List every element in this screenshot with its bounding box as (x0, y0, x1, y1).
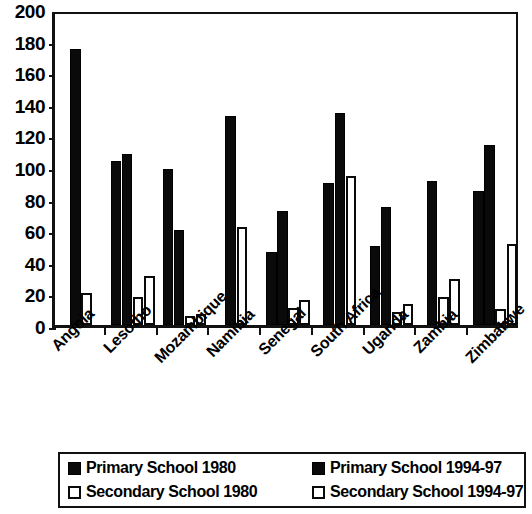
y-axis-tick-label: 140 (0, 97, 45, 116)
y-axis-tick-label: 80 (0, 192, 45, 211)
x-axis-labels: AngolaLesothoMozambiqueNamibiaSenegalSou… (0, 330, 532, 445)
outlined-square-icon (68, 486, 81, 499)
bar (111, 161, 122, 325)
legend-label: Secondary School 1980 (86, 483, 257, 501)
bar-chart: 200180160140120100806040200 AngolaLesoth… (0, 0, 532, 345)
bar (277, 211, 288, 325)
legend-item: Primary School 1980 (68, 459, 236, 477)
legend-item: Secondary School 1994-97 (312, 483, 523, 501)
legend-label: Primary School 1994-97 (330, 459, 502, 477)
bar (122, 154, 133, 325)
bar (70, 49, 81, 326)
y-axis-tick-label: 120 (0, 128, 45, 147)
bar (225, 116, 236, 325)
outlined-square-icon (312, 486, 325, 499)
bar (174, 230, 185, 325)
bar (427, 181, 438, 325)
chart-legend: Primary School 1980Primary School 1994-9… (58, 452, 526, 508)
y-axis-tick-label: 40 (0, 255, 45, 274)
legend-item: Secondary School 1980 (68, 483, 257, 501)
bar (484, 145, 495, 325)
y-axis-tick-label: 200 (0, 2, 45, 21)
filled-square-icon (68, 462, 81, 475)
legend-grid: Primary School 1980Primary School 1994-9… (60, 454, 524, 506)
bar (335, 113, 346, 325)
legend-label: Primary School 1980 (86, 459, 236, 477)
bar (163, 169, 174, 325)
bar (473, 191, 484, 325)
plot-area (52, 12, 518, 328)
bar (381, 207, 392, 326)
legend-item: Primary School 1994-97 (312, 459, 502, 477)
y-axis-tick-label: 20 (0, 286, 45, 305)
bar (323, 183, 334, 325)
y-axis-labels: 200180160140120100806040200 (0, 0, 48, 345)
legend-label: Secondary School 1994-97 (330, 483, 523, 501)
filled-square-icon (312, 462, 325, 475)
bar (266, 252, 277, 325)
y-axis-tick-label: 180 (0, 34, 45, 53)
y-axis-tick-label: 160 (0, 65, 45, 84)
y-axis-tick-label: 100 (0, 160, 45, 179)
y-axis-tick-label: 60 (0, 223, 45, 242)
